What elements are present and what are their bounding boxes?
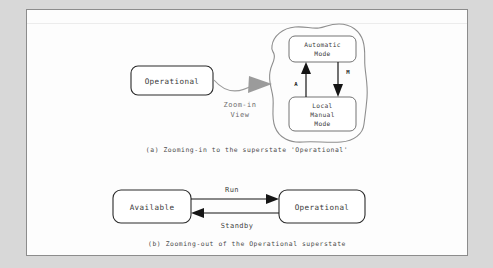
transition-m-arrowhead: [333, 84, 343, 97]
zoom-in-arrow-head: [248, 76, 272, 93]
transition-a-label: A: [294, 81, 298, 87]
transition-standby-label: Standby: [221, 222, 254, 230]
state-available[interactable]: Available: [113, 190, 191, 223]
zoom-in-label-line1: Zoom-in: [223, 101, 256, 109]
state-local-manual-mode-label-line1: Local: [312, 102, 332, 109]
state-automatic-mode-box[interactable]: [289, 36, 356, 62]
transition-run-arrowhead: [266, 194, 279, 204]
state-automatic-mode[interactable]: Automatic Mode: [289, 36, 356, 62]
state-automatic-mode-label-line1: Automatic: [304, 41, 341, 48]
state-operational-label: Operational: [145, 77, 200, 86]
panel-b-diagram: Available Operational Run Standby: [27, 172, 468, 242]
state-operational-zoomed[interactable]: Operational: [131, 66, 213, 95]
panel-b-caption: (b) Zooming-out of the Operational super…: [27, 240, 467, 248]
state-operational-label-b: Operational: [295, 203, 350, 212]
state-local-manual-mode-label-line3: Mode: [314, 120, 330, 127]
transition-m-arrow: [333, 62, 343, 97]
state-local-manual-mode-label-line2: Manual: [310, 111, 334, 118]
transition-a-arrow: [301, 62, 311, 97]
transition-standby-arrowhead: [191, 208, 204, 218]
transition-a-arrowhead: [301, 62, 311, 74]
state-automatic-mode-label-line2: Mode: [314, 50, 330, 57]
zoom-in-arrow: [214, 76, 272, 93]
transition-standby-arrow: [191, 208, 279, 218]
figure-page: Operational Zoom-in View Automatic Mode …: [26, 9, 468, 256]
state-operational[interactable]: Operational: [279, 190, 365, 223]
transition-m-label: M: [346, 69, 350, 75]
panel-a-caption: (a) Zooming-in to the superstate 'Operat…: [27, 146, 467, 154]
zoom-in-arrow-curve: [214, 80, 253, 91]
panel-a-diagram: Operational Zoom-in View Automatic Mode …: [27, 10, 468, 160]
scan-surface: Operational Zoom-in View Automatic Mode …: [27, 10, 467, 255]
zoom-in-label-line2: View: [231, 111, 250, 119]
state-local-manual-mode[interactable]: Local Manual Mode: [289, 97, 356, 131]
transition-run-arrow: [191, 194, 279, 204]
transition-run-label: Run: [225, 186, 239, 194]
state-available-label: Available: [130, 203, 175, 212]
